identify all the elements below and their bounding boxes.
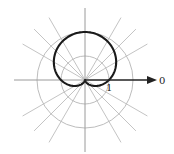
unit-tick-label: 1 <box>106 82 112 93</box>
polar-axis-label: 0 <box>159 75 165 86</box>
polar-plot: 0 1 <box>0 0 174 154</box>
arrowhead-icon <box>147 76 157 84</box>
